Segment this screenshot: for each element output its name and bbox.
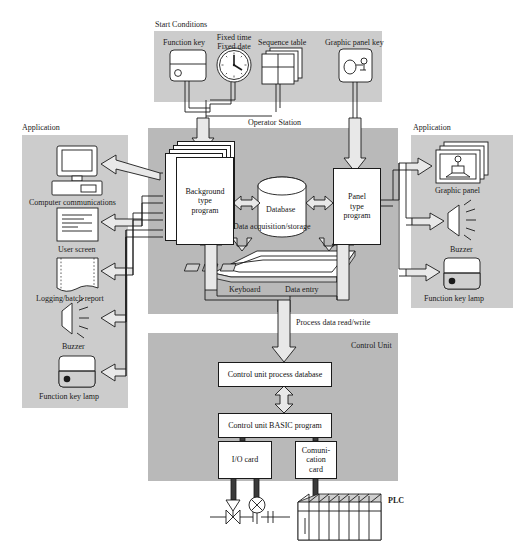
communication-card-l2: cation	[306, 455, 326, 465]
background-type-program-l2: type	[198, 196, 212, 206]
start-item-label-function-key: Function key	[163, 38, 205, 47]
arrow-db-to-basic	[275, 386, 293, 413]
fixed-time-line2: Fixed date	[211, 42, 257, 51]
control-valve-icon	[210, 500, 253, 524]
instrument-icon	[249, 497, 290, 524]
app-right-label-function-key-lamp: Function key lamp	[424, 294, 484, 303]
app-left-label-logging-batch-report: Logging/batch report	[36, 294, 104, 303]
graphic-panel-icon	[436, 142, 488, 183]
communication-card-l3: card	[309, 465, 323, 475]
keyboard-label: Keyboard	[229, 285, 261, 294]
sequence-table-icon	[262, 48, 302, 84]
process-data-readwrite-label: Process data read/write	[296, 318, 370, 327]
panel-type-program-l2: type	[350, 202, 364, 212]
buzzer-icon-left	[62, 298, 89, 338]
block-control-unit-process-database: Control unit process database	[218, 362, 332, 387]
clock-icon	[217, 48, 251, 82]
arrow-to-graphic-panel	[406, 158, 432, 175]
arrow-to-buzzer-left	[101, 310, 126, 327]
function-key-lamp-icon-right	[444, 258, 480, 289]
arrow-to-user-screen	[101, 214, 142, 231]
data-acquisition-storage-label: Data acquisition/storage	[233, 222, 311, 231]
arrow-to-logging	[101, 263, 133, 280]
computer-icon	[52, 146, 102, 195]
background-type-program-l3: program	[191, 206, 218, 216]
app-left-label-buzzer: Buzzer	[62, 342, 85, 351]
arrow-background-database	[233, 196, 260, 210]
arrow-to-function-key-lamp-right	[406, 264, 440, 281]
fixed-time-line1: Fixed time	[211, 33, 257, 42]
document-screen-icon	[57, 208, 98, 241]
graphic-panel-key-icon	[339, 49, 372, 82]
printout-icon	[57, 258, 98, 291]
arrow-database-panel	[306, 196, 333, 210]
app-left-label-user-screen: User screen	[58, 245, 96, 254]
function-key-icon	[170, 50, 206, 81]
app-left-label-function-key-lamp: Function key lamp	[39, 392, 99, 401]
communication-card-l1: Comuni-	[302, 446, 330, 456]
plc-icon	[298, 494, 381, 540]
block-control-unit-basic-program: Control unit BASIC program	[218, 413, 332, 438]
data-entry-label: Data entry	[285, 285, 319, 294]
arrow-start-to-panel	[344, 118, 366, 172]
arrow-to-function-key-lamp-left	[101, 364, 126, 381]
plc-label: PLC	[388, 496, 404, 505]
panel-type-program-l3: program	[343, 211, 370, 221]
database-label: Database	[266, 205, 295, 214]
arrow-keyboard-to-background	[232, 238, 252, 251]
block-communication-card: Comuni- cation card	[295, 441, 337, 479]
block-panel-type-program: Panel type program	[333, 168, 381, 245]
panel-type-program-l1: Panel	[348, 192, 366, 202]
start-item-label-sequence-table: Sequence table	[258, 38, 306, 47]
app-right-label-buzzer: Buzzer	[450, 245, 473, 254]
arrow-to-computer	[101, 155, 160, 180]
start-item-label-graphic-panel-key: Graphic panel key	[325, 38, 384, 47]
app-left-label-computer-communications: Computer communications	[29, 198, 116, 207]
arrow-process-data-readwrite	[272, 300, 296, 362]
app-right-label-graphic-panel: Graphic panel	[435, 186, 480, 195]
block-io-card: I/O card	[218, 441, 272, 479]
start-item-label-fixed-time: Fixed time Fixed date	[211, 33, 257, 51]
buzzer-icon-right	[448, 200, 476, 240]
block-background-type-program: Background type program	[176, 157, 234, 245]
background-type-program-l1: Background	[185, 187, 224, 197]
diagram-canvas: Start Conditions Operator Station Contro…	[0, 0, 527, 553]
function-key-lamp-icon-left	[59, 356, 95, 387]
arrow-to-buzzer-right	[412, 213, 444, 230]
